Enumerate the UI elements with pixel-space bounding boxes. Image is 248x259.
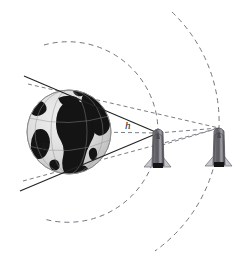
diagram-canvas: R h bbox=[0, 0, 248, 259]
spacecraft-near bbox=[144, 129, 171, 168]
orbital-geometry-diagram bbox=[0, 0, 248, 259]
radius-label: R bbox=[41, 141, 48, 152]
outer-orbit-arc bbox=[155, 12, 219, 251]
altitude-label: h bbox=[125, 120, 131, 131]
earth-globe bbox=[27, 88, 111, 177]
shuttle-glyph bbox=[144, 129, 171, 168]
shuttle-glyph bbox=[205, 128, 232, 167]
spacecraft-far bbox=[205, 128, 232, 167]
